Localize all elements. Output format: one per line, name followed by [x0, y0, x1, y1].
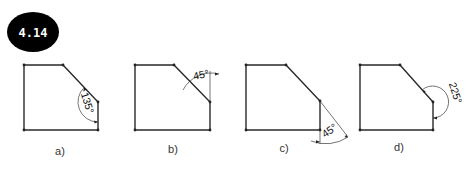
vertex [134, 64, 137, 67]
panel-c: 45° c) [245, 64, 348, 154]
panel-label: c) [279, 142, 288, 154]
chamfered-shape [360, 65, 433, 130]
figure-number-badge: 4.14 [7, 12, 59, 52]
angle-label: 225° [447, 81, 465, 105]
vertex [62, 64, 65, 67]
vertex [245, 64, 248, 67]
vertex [359, 129, 362, 132]
panel-a: 135° a) [23, 64, 100, 157]
vertex [359, 64, 362, 67]
vertex [432, 101, 435, 104]
vertex [97, 101, 100, 104]
vertex [399, 64, 402, 67]
panel-b: 45° b) [134, 64, 219, 155]
panel-label: b) [168, 143, 178, 155]
angle-label: 45° [319, 121, 339, 140]
vertex [173, 64, 176, 67]
panel-label: d) [394, 141, 404, 153]
angle-arc [422, 86, 449, 118]
chamfered-shape [246, 65, 320, 130]
vertex [134, 129, 137, 132]
panel-label: a) [55, 145, 65, 157]
vertex [23, 64, 26, 67]
angle-label: 135° [79, 91, 97, 115]
vertex [245, 129, 248, 132]
vertex [285, 64, 288, 67]
panel-d: 225° d) [359, 64, 465, 153]
vertex [432, 129, 435, 132]
vertex [209, 129, 212, 132]
figure-4-14: 4.14 135° a) 45° b) [0, 0, 472, 169]
arrowhead [215, 72, 219, 75]
vertex [23, 129, 26, 132]
figure-number: 4.14 [19, 26, 48, 40]
vertex [97, 129, 100, 132]
angle-label: 45° [192, 67, 210, 82]
